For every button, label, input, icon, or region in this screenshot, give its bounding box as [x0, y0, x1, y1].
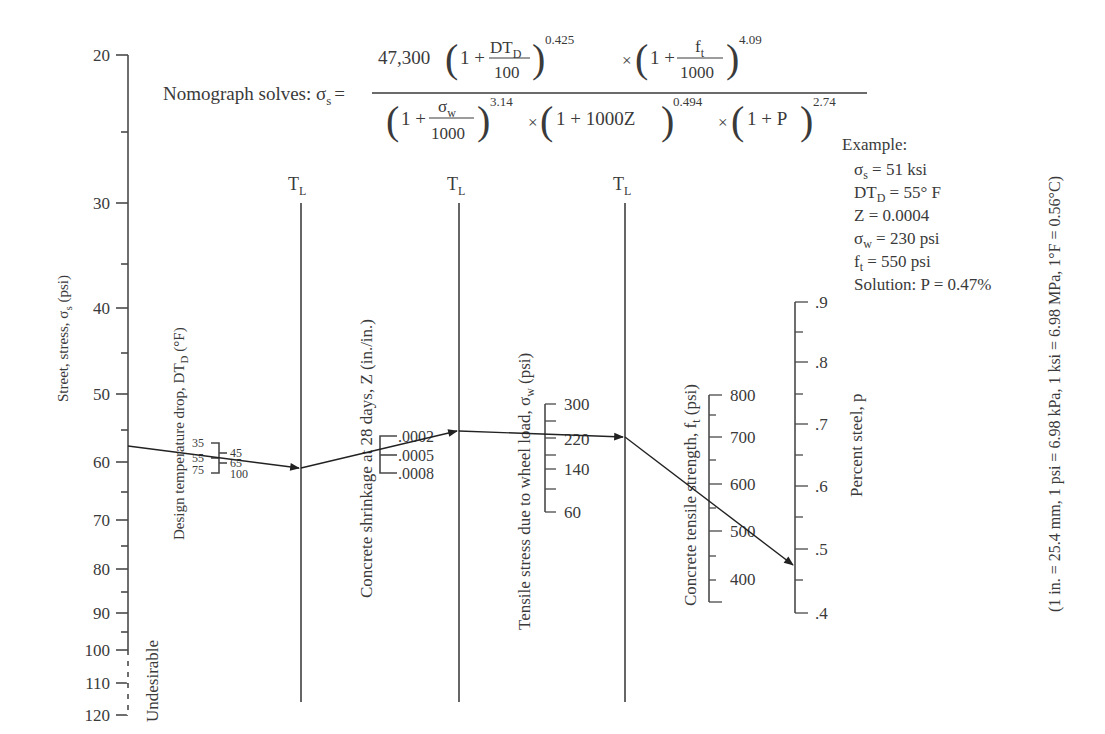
shrinkage-term: 1 + 1000Z [556, 108, 635, 129]
tick-label: 40 [93, 299, 110, 318]
percent-steel-scale: .9 .8 .7 .6 .5 .4 Percent steel, p [795, 293, 866, 623]
paren-open: ( [540, 98, 553, 143]
tick-label: 220 [564, 430, 590, 449]
sigma-s-axis: 20 30 40 50 60 70 80 90 100 110 120 Stre… [55, 46, 162, 725]
dtd-scale: Design temperature drop, DTD (°F) 35 55 … [171, 327, 248, 540]
times-sign: × [718, 113, 728, 132]
dtd-axis-label: Design temperature drop, DTD (°F) [171, 327, 190, 540]
tick-label: .6 [815, 477, 828, 496]
tick-label: 700 [730, 428, 756, 447]
paren-open: ( [445, 36, 458, 81]
tick-label: .7 [815, 415, 828, 434]
tick-label: 100 [85, 641, 111, 660]
example-line: ft = 550 psi [854, 252, 931, 274]
example-line: Z = 0.0004 [854, 206, 930, 225]
sw-fraction-den: 1000 [431, 124, 465, 143]
tick-label: 120 [85, 706, 111, 725]
tick-label: 140 [564, 460, 590, 479]
turning-line-label: TL [447, 174, 465, 198]
tick-label: 110 [85, 674, 110, 693]
z-axis-label: Concrete shrinkage at 28 days, Z (in./in… [357, 319, 376, 598]
times-sign: × [622, 51, 632, 70]
dtd-fraction-den: 100 [494, 63, 520, 82]
steel-term: 1 + P [747, 108, 787, 129]
exponent-409: 4.09 [739, 32, 762, 47]
ft-axis-label: Concrete tensile strength, ft (psi) [681, 384, 703, 606]
example-line: DTD = 55° F [854, 183, 941, 205]
conversion-note: (1 in. = 25.4 mm, 1 psi = 6.98 kPa, 1 ks… [1046, 176, 1064, 612]
tick-label: .8 [815, 353, 828, 372]
path-segment-1 [128, 446, 299, 468]
paren-close: ) [532, 36, 545, 81]
tick-label: 60 [564, 503, 581, 522]
tick-label: 90 [93, 604, 110, 623]
undesirable-label: Undesirable [143, 640, 162, 722]
tick-label: .5 [815, 540, 828, 559]
formula-coefficient: 47,300 [378, 47, 430, 68]
tick-label: .0002 [398, 428, 434, 445]
times-sign: × [528, 113, 538, 132]
exponent-0425: 0.425 [545, 32, 574, 47]
exponent-274: 2.74 [813, 94, 836, 109]
example-line: σw = 230 psi [854, 229, 940, 251]
one-plus: 1 + [460, 47, 485, 68]
one-plus: 1 + [650, 47, 675, 68]
tick-label: 100 [230, 467, 248, 481]
tick-label: .4 [815, 604, 828, 623]
paren-open: ( [386, 98, 399, 143]
turning-line-label: TL [613, 174, 631, 198]
exponent-314: 3.14 [490, 94, 513, 109]
tick-label: 35 [192, 436, 204, 450]
tick-label: .0008 [398, 465, 434, 482]
tick-label: 500 [730, 522, 756, 541]
sigma-w-scale: Tensile stress due to wheel load, σw (ps… [515, 353, 590, 630]
tick-label: 20 [93, 46, 110, 65]
example-line: σs = 51 ksi [854, 160, 927, 182]
tick-label: 60 [93, 453, 110, 472]
tick-label: 600 [730, 475, 756, 494]
formula-prefix: Nomograph solves: σs= [163, 83, 345, 108]
paren-close: ) [800, 98, 813, 143]
paren-open: ( [731, 98, 744, 143]
sigma-w-axis-label: Tensile stress due to wheel load, σw (ps… [515, 353, 537, 630]
ft-scale: Concrete tensile strength, ft (psi) 800 … [681, 384, 756, 606]
tick-label: 800 [730, 386, 756, 405]
tick-label: .9 [815, 293, 828, 312]
ft-fraction-num: ft [695, 37, 705, 60]
example-title: Example: [842, 135, 907, 154]
tick-label: 30 [93, 194, 110, 213]
path-segment-3 [459, 431, 623, 437]
z-scale: Concrete shrinkage at 28 days, Z (in./in… [357, 319, 434, 598]
tick-label: 75 [192, 463, 204, 477]
nomograph-canvas: Nomograph solves: σs= 47,300 ( 1 + DTD 1… [0, 0, 1105, 734]
tick-label: 300 [564, 395, 590, 414]
tick-label: 80 [93, 560, 110, 579]
tick-label: .0005 [398, 447, 434, 464]
turning-line-label: TL [288, 174, 306, 198]
paren-open: ( [635, 36, 648, 81]
one-plus: 1 + [401, 108, 426, 129]
example-solution: Solution: P = 0.47% [854, 275, 991, 294]
ft-fraction-den: 1000 [680, 63, 714, 82]
tick-label: 50 [93, 385, 110, 404]
tick-label: 70 [93, 511, 110, 530]
formula: Nomograph solves: σs= 47,300 ( 1 + DTD 1… [163, 32, 867, 143]
percent-steel-axis-label: Percent steel, p [847, 394, 866, 497]
sw-fraction-num: σw [438, 97, 456, 120]
exponent-0494: 0.494 [673, 94, 703, 109]
paren-close: ) [726, 36, 739, 81]
example-block: Example: σs = 51 ksi DTD = 55° F Z = 0.0… [842, 135, 991, 294]
tick-label: 400 [730, 570, 756, 589]
paren-close: ) [477, 98, 490, 143]
sigma-s-axis-label: Street, stress, σs (psi) [55, 275, 74, 402]
